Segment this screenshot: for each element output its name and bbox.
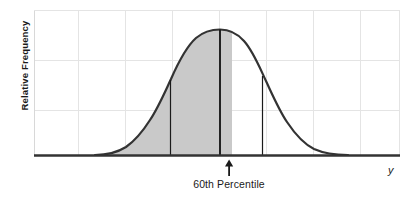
arrow-head <box>225 160 233 167</box>
x-axis-title: y <box>388 164 394 176</box>
distribution-figure: Relative Frequency y 60th Percentile <box>0 0 415 201</box>
percentile-annotation-label: 60th Percentile <box>159 178 299 190</box>
normal-distribution-chart <box>0 0 415 201</box>
percentile-arrow-icon <box>225 160 233 177</box>
y-axis-title: Relative Frequency <box>19 0 30 136</box>
